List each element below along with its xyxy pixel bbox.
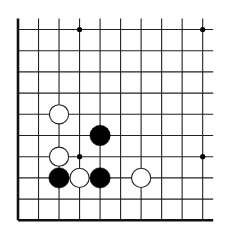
white-stone[interactable] bbox=[49, 105, 68, 124]
black-stone[interactable] bbox=[49, 168, 69, 188]
black-stone[interactable] bbox=[90, 168, 110, 188]
white-stone[interactable] bbox=[132, 168, 151, 187]
black-stone[interactable] bbox=[90, 125, 110, 145]
go-board bbox=[0, 0, 228, 237]
white-stone[interactable] bbox=[49, 147, 68, 166]
star-point-icon bbox=[77, 154, 82, 159]
star-point-icon bbox=[200, 27, 205, 32]
star-point-icon bbox=[200, 154, 205, 159]
star-point-icon bbox=[77, 27, 82, 32]
white-stone[interactable] bbox=[70, 168, 89, 187]
board-grid bbox=[18, 19, 213, 221]
